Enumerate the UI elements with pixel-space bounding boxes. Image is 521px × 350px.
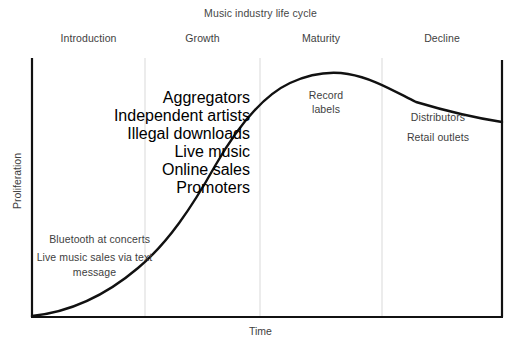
annotation-independent-artists: Independent artists bbox=[114, 107, 250, 125]
annotation-aggregators: Aggregators bbox=[114, 89, 250, 107]
annotation-online-sales: Online sales bbox=[114, 161, 250, 179]
annotation-promoters: Promoters bbox=[114, 179, 250, 197]
annotation-growth-list: Aggregators Independent artists Illegal … bbox=[114, 89, 250, 197]
annotation-distributors: Distributors bbox=[398, 110, 478, 125]
annotation-illegal-downloads: Illegal downloads bbox=[114, 125, 250, 143]
annotation-bluetooth-at-concerts: Bluetooth at concerts bbox=[38, 232, 150, 247]
y-axis-label: Proliferation bbox=[11, 131, 23, 231]
annotation-live-music-sales-text: Live music sales via text message bbox=[22, 250, 167, 280]
x-axis-label: Time bbox=[0, 325, 521, 337]
annotation-live-music: Live music bbox=[114, 143, 250, 161]
annotation-retail-outlets: Retail outlets bbox=[398, 130, 478, 145]
chart-plot-area bbox=[0, 0, 521, 350]
chart-page: Music industry life cycle Introduction G… bbox=[0, 0, 521, 350]
annotation-record-labels: Record labels bbox=[296, 88, 356, 116]
